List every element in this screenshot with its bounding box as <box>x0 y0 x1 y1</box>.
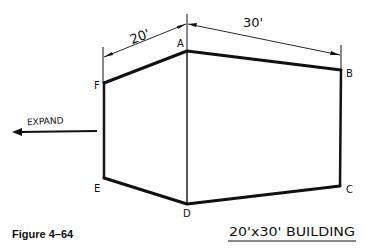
arrowhead-icon <box>177 24 186 29</box>
figure-caption: Figure 4–64 <box>12 228 74 240</box>
expand-arrow-shaft <box>20 131 97 132</box>
arrowhead-icon <box>330 51 340 55</box>
dimension-lines <box>103 14 341 83</box>
building-diagram: 20' 30' A B C D E F EXPAND Figure 4–64 2… <box>0 0 365 248</box>
right-edge-BC <box>340 70 341 186</box>
corner-label-C: C <box>346 184 353 195</box>
dimension-label-20: 20' <box>128 26 152 47</box>
arrowhead-icon <box>188 23 197 27</box>
expand-annotation: EXPAND <box>12 115 97 136</box>
corner-label-D: D <box>183 208 191 219</box>
top-edge <box>104 51 341 83</box>
corner-label-A: A <box>177 38 184 49</box>
building-outline <box>104 51 341 204</box>
arrow-left-icon <box>12 128 22 136</box>
corner-label-F: F <box>94 80 100 91</box>
expand-label: EXPAND <box>27 115 64 127</box>
bottom-edge <box>104 178 340 204</box>
arrowhead-icon <box>104 52 113 57</box>
corner-label-E: E <box>94 183 100 194</box>
dimension-line-30 <box>188 24 340 55</box>
building-title: 20'x30' BUILDING <box>229 224 355 239</box>
dimension-label-30: 30' <box>243 15 263 30</box>
corner-label-B: B <box>346 68 353 79</box>
